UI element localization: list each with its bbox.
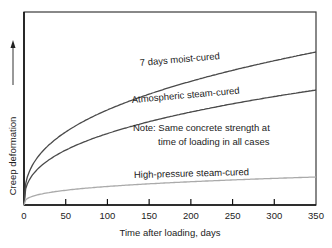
creep-chart: 050100150200250300350 7 days moist-cured… bbox=[0, 0, 332, 248]
x-tick-label: 350 bbox=[308, 210, 324, 221]
label-high-pressure-steam-cured: High-pressure steam-cured bbox=[134, 166, 249, 180]
label-7-days-moist-cured: 7 days moist-cured bbox=[139, 50, 220, 68]
x-tick-label: 150 bbox=[141, 210, 157, 221]
x-tick-label: 50 bbox=[60, 210, 71, 221]
label-atmospheric-steam-cured: Atmospheric steam-cured bbox=[131, 85, 240, 105]
note-line-2: time of loading in all cases bbox=[158, 136, 270, 147]
y-axis-label: Creep deformation bbox=[7, 117, 18, 196]
x-ticks bbox=[66, 199, 275, 205]
arrow-up-icon bbox=[11, 40, 16, 85]
x-tick-label: 0 bbox=[21, 210, 26, 221]
x-tick-label: 100 bbox=[99, 210, 115, 221]
curve-atmospheric-steam-cured bbox=[24, 90, 316, 205]
x-tick-label: 200 bbox=[183, 210, 199, 221]
note-line-1: Note: Same concrete strength at bbox=[133, 122, 270, 133]
curve-high-pressure-steam-cured bbox=[24, 177, 316, 205]
x-tick-label: 250 bbox=[225, 210, 241, 221]
x-tick-labels: 050100150200250300350 bbox=[21, 210, 324, 221]
x-axis-label: Time after loading, days bbox=[119, 227, 220, 238]
x-tick-label: 300 bbox=[266, 210, 282, 221]
